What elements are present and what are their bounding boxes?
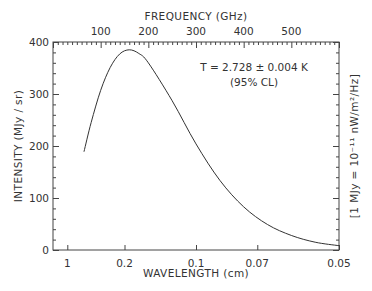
y-axis-title: INTENSITY (MJy / sr) (12, 90, 24, 202)
y-tick-label: 200 (29, 140, 49, 152)
y-tick-label: 0 (42, 244, 49, 256)
y-tick-label: 100 (29, 192, 49, 204)
y2-axis-title: [1 MJy = 10⁻¹¹ nW/m²/Hz] (348, 74, 360, 218)
cmb-spectrum-chart: 10.20.10.070.051002003004005000100200300… (0, 0, 372, 291)
blackbody-curve (84, 50, 339, 246)
x2-axis-title: FREQUENCY (GHz) (144, 10, 247, 22)
bottom-tick-label: 0.05 (327, 257, 350, 269)
top-tick-label: 100 (91, 25, 111, 37)
top-tick-label: 500 (281, 25, 301, 37)
top-tick-label: 400 (234, 25, 254, 37)
plot-border (53, 42, 339, 250)
top-tick-label: 200 (138, 25, 158, 37)
temperature-annotation: T = 2.728 ± 0.004 K (199, 61, 309, 73)
plot-frame (53, 42, 339, 250)
axis-ticks (53, 42, 340, 251)
bottom-tick-label: 0.07 (246, 257, 269, 269)
bottom-tick-label: 1 (64, 257, 71, 269)
bottom-tick-label: 0.2 (116, 257, 133, 269)
top-tick-label: 300 (186, 25, 206, 37)
y-tick-label: 400 (29, 36, 49, 48)
confidence-annotation: (95% CL) (230, 76, 278, 88)
x-axis-title: WAVELENGTH (cm) (143, 267, 249, 279)
y-tick-label: 300 (29, 88, 49, 100)
